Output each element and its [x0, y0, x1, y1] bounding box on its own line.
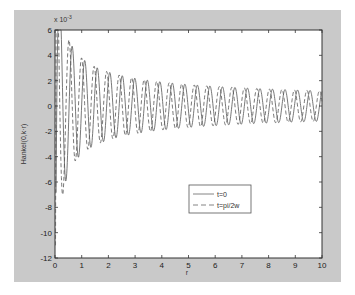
x-tick-label: 7 — [240, 261, 245, 270]
y-tick-label: -2 — [45, 127, 53, 136]
x-tick-label: 8 — [266, 261, 271, 270]
x-tick-label: 10 — [318, 261, 327, 270]
x-tick-label: 3 — [133, 261, 138, 270]
x-tick-label: 0 — [53, 261, 58, 270]
plot-area — [55, 30, 322, 258]
x-tick-label: 4 — [160, 261, 165, 270]
y-tick-label: 2 — [48, 77, 53, 86]
x-tick-label: 2 — [106, 261, 111, 270]
x-tick-label: 6 — [213, 261, 218, 270]
y-tick-label: -6 — [45, 178, 53, 187]
line-chart: 012345678910-12-10-8-6-4-20246 x 10-3 r … — [14, 10, 341, 282]
y-tick-label: -12 — [40, 254, 52, 263]
exponent-label: x 10-3 — [54, 14, 72, 23]
y-tick-label: -8 — [45, 203, 53, 212]
legend-label-tpi2w: t=pi/2w — [217, 202, 240, 210]
y-tick-label: 4 — [48, 51, 53, 60]
x-tick-label: 9 — [293, 261, 298, 270]
x-axis-label: r — [186, 269, 189, 276]
y-tick-label: 0 — [48, 102, 53, 111]
figure-background: 012345678910-12-10-8-6-4-20246 x 10-3 r … — [14, 10, 341, 282]
legend-label-t0: t=0 — [217, 191, 227, 198]
y-tick-label: -4 — [45, 153, 53, 162]
y-axis-label: Hankel(0,k·r) — [20, 124, 28, 164]
x-tick-label: 1 — [79, 261, 84, 270]
y-tick-label: 6 — [48, 26, 53, 35]
legend: t=0 t=pi/2w — [189, 185, 251, 213]
y-tick-label: -10 — [40, 229, 52, 238]
